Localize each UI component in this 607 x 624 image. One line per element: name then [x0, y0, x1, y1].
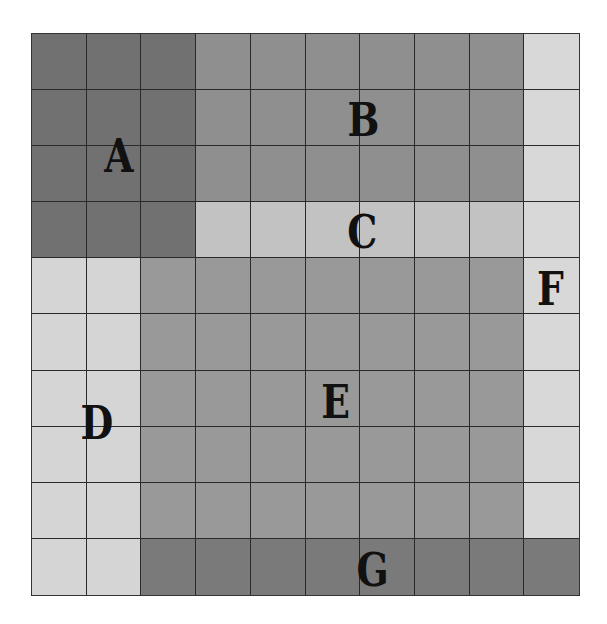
grid-cell-region-f — [524, 146, 579, 202]
grid-cell-region-g — [306, 539, 361, 595]
grid-cell-region-b — [306, 34, 361, 90]
grid-cell-region-g — [251, 539, 306, 595]
grid-cell-region-b — [360, 146, 415, 202]
grid-cell-region-e — [470, 314, 525, 370]
grid-cell-region-c — [360, 202, 415, 258]
grid-cell-region-e — [415, 314, 470, 370]
grid-cell-region-d — [87, 427, 142, 483]
grid-cell-region-d — [87, 539, 142, 595]
grid-cell-region-e — [196, 371, 251, 427]
grid-cell-region-c — [415, 202, 470, 258]
grid-cell-region-c — [470, 202, 525, 258]
grid-cell-region-f — [524, 314, 579, 370]
grid-cell-region-e — [141, 258, 196, 314]
grid-cell-region-e — [306, 483, 361, 539]
grid-cell-region-a — [32, 90, 87, 146]
grid-cell-region-e — [306, 427, 361, 483]
grid-cell-region-g — [141, 539, 196, 595]
grid-cell-region-c — [251, 202, 306, 258]
grid-cell-region-e — [196, 427, 251, 483]
grid-cell-region-g — [470, 539, 525, 595]
grid-cell-region-b — [415, 146, 470, 202]
grid-cell-region-e — [360, 371, 415, 427]
grid-cell-region-e — [196, 314, 251, 370]
grid-cell-region-a — [87, 90, 142, 146]
grid-cell-region-e — [415, 371, 470, 427]
grid-cell-region-d — [32, 539, 87, 595]
grid-cell-region-g — [524, 539, 579, 595]
grid-cell-region-e — [415, 258, 470, 314]
grid-cell-region-e — [141, 371, 196, 427]
grid-cell-region-f — [524, 34, 579, 90]
grid-cell-region-c — [306, 202, 361, 258]
grid-cell-region-b — [470, 90, 525, 146]
grid-cell-region-f — [524, 427, 579, 483]
grid-cell-region-a — [32, 34, 87, 90]
grid-cell-region-b — [251, 146, 306, 202]
grid-cell-region-g — [415, 539, 470, 595]
grid-cell-region-e — [360, 258, 415, 314]
grid-cell-region-b — [306, 146, 361, 202]
grid-cell-region-e — [141, 427, 196, 483]
grid-cell-region-f — [524, 258, 579, 314]
grid-cell-region-e — [251, 258, 306, 314]
grid-cell-region-d — [87, 258, 142, 314]
grid-cell-region-e — [415, 483, 470, 539]
grid-cell-region-f — [524, 371, 579, 427]
grid-cell-region-e — [360, 483, 415, 539]
grid-cell-region-b — [196, 34, 251, 90]
grid-cell-region-e — [306, 314, 361, 370]
grid-cell-region-d — [32, 371, 87, 427]
grid-cell-region-e — [415, 427, 470, 483]
grid-cell-region-a — [32, 202, 87, 258]
grid-cell-region-c — [196, 202, 251, 258]
grid-cell-region-e — [470, 258, 525, 314]
grid-cell-region-e — [470, 371, 525, 427]
grid-cell-region-a — [32, 146, 87, 202]
grid-cell-region-b — [360, 34, 415, 90]
grid-cell-region-b — [415, 90, 470, 146]
grid-cell-region-e — [470, 483, 525, 539]
grid-cell-region-d — [32, 258, 87, 314]
grid-cell-region-e — [141, 483, 196, 539]
grid-cell-region-b — [470, 34, 525, 90]
grid-cell-region-f — [524, 202, 579, 258]
grid-cell-region-b — [306, 90, 361, 146]
grid-cell-region-d — [32, 314, 87, 370]
grid-cell-region-e — [196, 483, 251, 539]
grid-cell-region-e — [306, 371, 361, 427]
grid-cell-region-a — [141, 34, 196, 90]
grid-cell-region-e — [251, 371, 306, 427]
grid-cell-region-e — [251, 483, 306, 539]
grid-cell-region-g — [196, 539, 251, 595]
grid-cell-region-e — [360, 427, 415, 483]
grid-cell-region-e — [251, 427, 306, 483]
grid-cell-region-a — [87, 146, 142, 202]
grid-cell-region-d — [87, 483, 142, 539]
grid-cell-region-b — [251, 34, 306, 90]
grid-cell-region-e — [360, 314, 415, 370]
grid-cell-region-f — [524, 90, 579, 146]
region-grid — [31, 33, 580, 596]
grid-cell-region-d — [87, 371, 142, 427]
grid-cell-region-a — [141, 202, 196, 258]
grid-cell-region-a — [87, 202, 142, 258]
grid-cell-region-b — [196, 90, 251, 146]
grid-cell-region-f — [524, 483, 579, 539]
grid-cell-region-a — [141, 90, 196, 146]
grid-cell-region-e — [306, 258, 361, 314]
grid-cell-region-e — [196, 258, 251, 314]
grid-cell-region-g — [360, 539, 415, 595]
grid-cell-region-e — [251, 314, 306, 370]
grid-cell-region-e — [141, 314, 196, 370]
grid-cell-region-d — [32, 483, 87, 539]
grid-cell-region-a — [87, 34, 142, 90]
grid-cell-region-b — [415, 34, 470, 90]
grid-cell-region-a — [141, 146, 196, 202]
grid-cell-region-d — [87, 314, 142, 370]
grid-cell-region-b — [251, 90, 306, 146]
grid-cell-region-b — [196, 146, 251, 202]
grid-cell-region-e — [470, 427, 525, 483]
grid-cell-region-d — [32, 427, 87, 483]
grid-cell-region-b — [470, 146, 525, 202]
